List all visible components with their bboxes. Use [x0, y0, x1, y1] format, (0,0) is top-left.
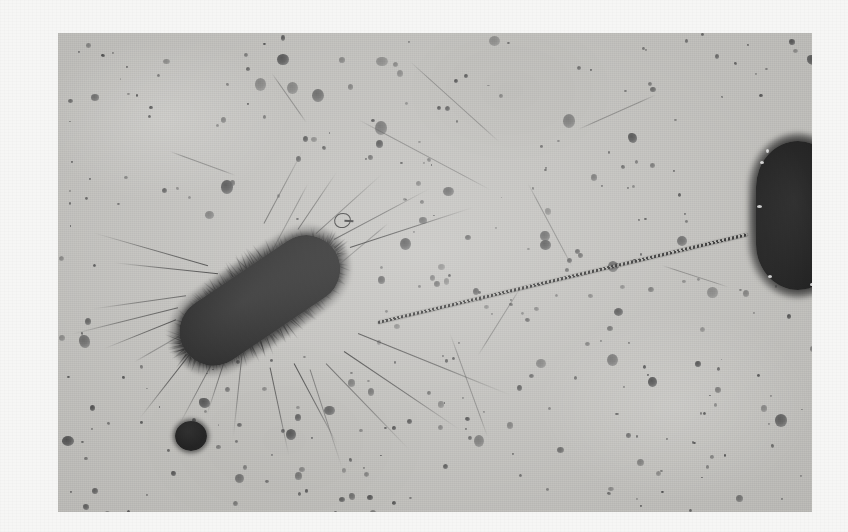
stain-particle [68, 99, 73, 104]
stain-particle [370, 510, 376, 512]
stain-particle [548, 407, 551, 410]
stain-particle [171, 471, 176, 477]
stain-particle [637, 459, 644, 466]
recipient-cell-body [756, 141, 812, 290]
pilus [263, 148, 304, 224]
stain-particle [454, 79, 458, 83]
stain-particle [400, 162, 403, 165]
stain-particle [349, 493, 355, 500]
stain-particle [70, 225, 72, 227]
stain-particle [363, 467, 365, 470]
stain-particle [216, 124, 219, 128]
stain-particle [546, 488, 550, 491]
stain-particle [715, 387, 720, 393]
stain-particle [700, 412, 702, 414]
stain-particle [645, 49, 647, 51]
stain-particle [534, 307, 539, 312]
stain-particle [83, 504, 89, 510]
stain-particle [271, 454, 273, 456]
stain-particle [188, 196, 191, 199]
stain-particle [392, 426, 395, 430]
stain-particle [717, 367, 720, 371]
stain-particle [91, 94, 100, 101]
stain-particle [590, 69, 592, 71]
stain-particle [59, 256, 64, 261]
stain-particle [205, 211, 214, 219]
stain-particle [623, 386, 625, 389]
stain-particle [311, 437, 313, 439]
stain-particle [163, 59, 169, 64]
stain-particle [444, 278, 450, 285]
stain-particle [648, 287, 654, 293]
stain-particle [545, 208, 552, 215]
stain-particle [491, 313, 493, 315]
stain-particle [107, 422, 110, 425]
stain-particle [724, 454, 727, 457]
stain-particle [91, 428, 94, 430]
stain-particle [807, 55, 812, 65]
stain-particle [218, 424, 220, 426]
stain-particle [640, 505, 642, 507]
stain-particle [666, 438, 668, 440]
stain-particle [148, 115, 151, 119]
stain-particle [650, 87, 656, 93]
stain-particle [770, 395, 772, 397]
stain-particle [685, 220, 689, 223]
stain-particle [793, 49, 798, 53]
stain-particle [789, 39, 795, 45]
stain-particle [444, 402, 446, 404]
stain-particle [265, 480, 268, 483]
stray-filament [578, 94, 656, 129]
micrograph-plate [58, 33, 812, 512]
stain-particle [427, 391, 431, 396]
stain-particle [376, 57, 387, 66]
donor-cell [146, 204, 372, 398]
stain-particle [465, 428, 468, 430]
stain-particle [479, 298, 482, 301]
stain-particle [700, 327, 705, 333]
stain-particle [405, 102, 408, 105]
stain-particle [296, 406, 300, 410]
stain-particle [632, 185, 635, 188]
stain-particle [734, 62, 737, 66]
stain-particle [527, 248, 530, 251]
stain-particle [246, 67, 250, 71]
stain-particle [489, 36, 500, 46]
pilus [350, 207, 474, 248]
stain-particle [588, 294, 592, 298]
stray-filament [272, 73, 307, 123]
stain-particle [286, 429, 296, 440]
stain-particle [703, 412, 706, 415]
stain-particle [247, 103, 249, 105]
stain-particle [620, 285, 625, 289]
stain-particle [478, 291, 481, 294]
stain-particle [739, 289, 741, 291]
stain-particle [521, 312, 524, 315]
stain-particle [295, 472, 302, 480]
stain-particle [263, 43, 265, 45]
stain-particle [146, 494, 148, 496]
stain-particle [225, 387, 230, 392]
stain-particle [600, 340, 603, 343]
stain-particle [423, 162, 425, 164]
stain-particle [456, 120, 458, 123]
stain-particle [648, 377, 656, 387]
stain-particle [433, 215, 435, 217]
stain-particle [647, 374, 649, 377]
stain-particle [71, 161, 73, 163]
stain-particle [709, 395, 711, 396]
stain-particle [761, 405, 767, 412]
stain-particle [607, 492, 611, 495]
stain-particle [418, 141, 421, 144]
polar-blob [175, 421, 207, 451]
stain-particle [394, 361, 396, 363]
stain-particle [577, 66, 581, 70]
stain-particle [62, 436, 74, 446]
stain-particle [707, 287, 718, 298]
stain-particle [312, 89, 323, 102]
stain-particle [146, 388, 148, 389]
stain-particle [368, 155, 373, 160]
stain-particle [636, 435, 638, 437]
stain-particle [501, 197, 503, 198]
stain-particle [348, 84, 353, 90]
